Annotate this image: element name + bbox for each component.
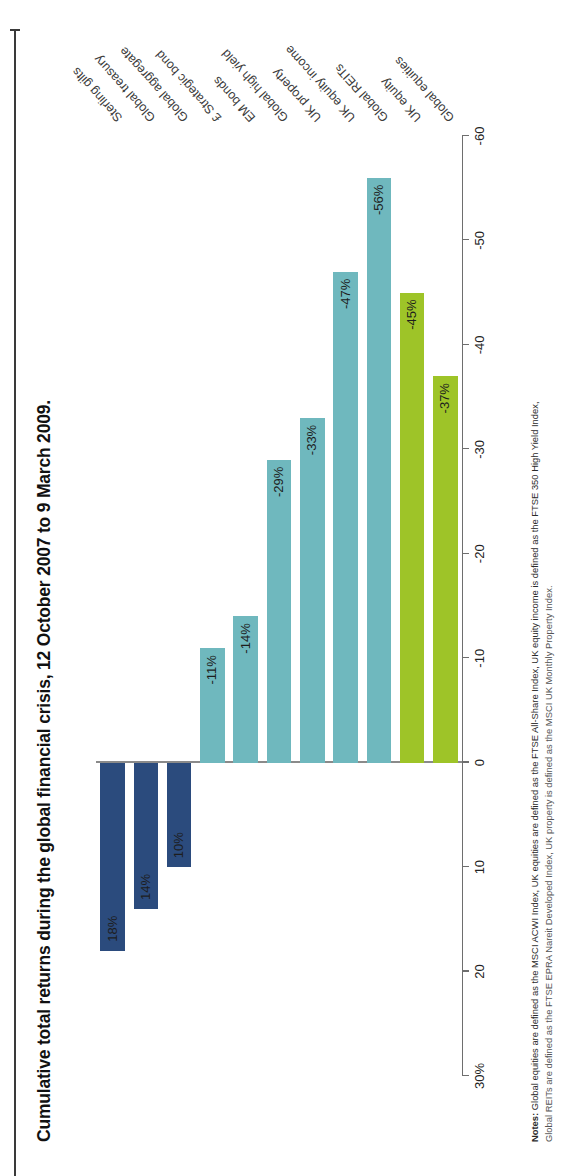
axis-tick xyxy=(462,1075,469,1076)
bar-value-label: -56% xyxy=(371,185,386,215)
bar xyxy=(400,293,425,763)
bar-value-label: -11% xyxy=(204,655,219,684)
axis-tick xyxy=(462,448,469,449)
axis-tick xyxy=(462,135,469,136)
bar-value-label: -29% xyxy=(271,467,286,497)
bar-value-label: 18% xyxy=(105,916,120,942)
axis-tick-label: -10 xyxy=(472,649,487,668)
axis-tick-label: -40 xyxy=(472,335,487,354)
bar-value-label: -47% xyxy=(338,279,353,309)
axis-tick xyxy=(462,239,469,240)
chart-notes: Notes: Global equities are defined as th… xyxy=(528,22,555,1142)
notes-line-1: Notes: Global equities are defined as th… xyxy=(528,22,542,1142)
notes-prefix: Notes: xyxy=(529,1113,540,1142)
axis-tick-label: -20 xyxy=(472,544,487,563)
page-rule-cap xyxy=(10,29,20,31)
page-rule-horizontal xyxy=(14,30,16,1176)
axis-tick-label: 20 xyxy=(472,964,487,978)
axis-tick-label: -30 xyxy=(472,440,487,459)
axis-tick-label: 30% xyxy=(472,1063,487,1089)
bar-value-label: 10% xyxy=(171,832,186,858)
value-axis-line xyxy=(462,136,463,1076)
category-label: Global equities xyxy=(392,54,458,125)
notes-body-1: Global equities are defined as the MSCI … xyxy=(529,402,540,1113)
chart-title: Cumulative total returns during the glob… xyxy=(34,422,55,1142)
bar-value-label: -14% xyxy=(238,623,253,653)
bar-value-label: -33% xyxy=(304,425,319,455)
bar-value-label: -45% xyxy=(404,299,419,329)
axis-tick-label: -60 xyxy=(472,127,487,146)
plot-area: 30%20100-10-20-30-40-50-60 -37%-45%-56%-… xyxy=(96,136,486,1076)
bar-value-label: -37% xyxy=(437,383,452,413)
axis-tick xyxy=(462,866,469,867)
axis-tick xyxy=(462,761,469,762)
bar xyxy=(433,376,458,762)
axis-tick xyxy=(462,970,469,971)
notes-line-2: Global REITs are defined as the FTSE EPR… xyxy=(542,22,556,1142)
axis-tick xyxy=(462,344,469,345)
rotated-figure: Cumulative total returns during the glob… xyxy=(0,0,572,1176)
axis-tick-label: 10 xyxy=(472,860,487,874)
axis-tick-label: 0 xyxy=(472,759,487,766)
axis-tick-label: -50 xyxy=(472,231,487,250)
bar xyxy=(367,178,392,763)
bar xyxy=(300,418,325,763)
bar-value-label: 14% xyxy=(138,874,153,900)
bar xyxy=(333,272,358,763)
bar xyxy=(267,460,292,763)
axis-tick xyxy=(462,553,469,554)
axis-tick xyxy=(462,657,469,658)
